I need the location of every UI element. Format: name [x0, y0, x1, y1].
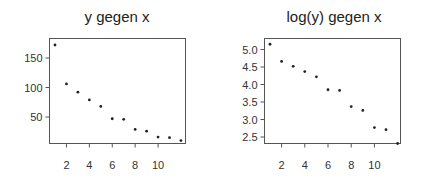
data-point [315, 75, 318, 78]
data-point [303, 70, 306, 73]
chart-title: y gegen x [84, 8, 150, 25]
data-point [338, 89, 341, 92]
plot-panel-y-vs-x: y gegen x 50100150 246810 [24, 8, 185, 171]
data-point [157, 136, 160, 139]
data-point [350, 105, 353, 108]
y-tick-label: 5.0 [242, 44, 257, 56]
data-point [65, 83, 68, 86]
data-point [168, 136, 171, 139]
data-point [280, 60, 283, 63]
data-point [99, 105, 102, 108]
chart-canvas: y gegen x 50100150 246810 log(y) gegen x… [0, 0, 423, 184]
y-axis: 2.53.03.54.04.55.0 [242, 44, 264, 144]
data-point [111, 117, 114, 120]
x-tick-label: 10 [152, 159, 164, 171]
y-tick-label: 2.5 [242, 131, 257, 143]
x-tick-label: 4 [302, 159, 308, 171]
y-tick-label: 50 [30, 111, 42, 123]
chart-title: log(y) gegen x [286, 8, 382, 25]
data-points [54, 44, 183, 142]
data-point [385, 128, 388, 131]
y-axis: 50100150 [24, 52, 49, 123]
data-point [327, 88, 330, 91]
data-points [269, 43, 399, 145]
plot-frame [50, 39, 186, 144]
data-point [373, 126, 376, 129]
y-tick-label: 3.5 [242, 96, 257, 108]
data-point [88, 98, 91, 101]
data-point [54, 44, 57, 47]
data-point [77, 91, 80, 94]
data-point [134, 128, 137, 131]
x-axis: 246810 [63, 144, 164, 171]
data-point [269, 43, 272, 46]
y-tick-label: 4.5 [242, 61, 257, 73]
data-point [361, 109, 364, 112]
y-tick-label: 150 [24, 52, 42, 64]
y-tick-label: 3.0 [242, 114, 257, 126]
data-point [145, 130, 148, 133]
data-point [180, 139, 183, 142]
x-tick-label: 2 [279, 159, 285, 171]
data-point [396, 142, 399, 145]
x-tick-label: 6 [325, 159, 331, 171]
x-tick-label: 8 [348, 159, 354, 171]
plot-frame [265, 39, 401, 144]
data-point [292, 65, 295, 68]
x-axis: 246810 [279, 144, 381, 171]
y-tick-label: 100 [24, 82, 42, 94]
x-tick-label: 2 [63, 159, 69, 171]
x-tick-label: 10 [368, 159, 380, 171]
data-point [122, 118, 125, 121]
x-tick-label: 6 [109, 159, 115, 171]
x-tick-label: 8 [132, 159, 138, 171]
plot-panel-logy-vs-x: log(y) gegen x 2.53.03.54.04.55.0 246810 [242, 8, 400, 171]
x-tick-label: 4 [86, 159, 92, 171]
y-tick-label: 4.0 [242, 79, 257, 91]
